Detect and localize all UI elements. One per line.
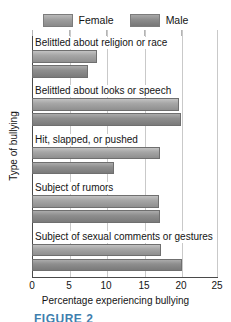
bars [32,50,218,82]
category-label: Hit, slapped, or pushed [34,134,139,146]
x-tick-label: 25 [211,280,222,292]
bar-female [32,147,160,160]
legend-item-male: Male [130,14,189,27]
bar-male [32,113,181,126]
bar-female [32,244,161,257]
x-tick-label: 10 [100,280,111,292]
bar-group-religion-or-race: Belittled about religion or race [32,36,218,84]
x-axis-ticks: 0 5 10 15 20 25 [32,280,218,294]
chart-legend: Female Male [0,10,231,30]
legend-swatch-female-icon [43,14,73,27]
bar-male [32,65,88,78]
bars [32,244,218,276]
bar-female [32,195,159,208]
bar-group-subject-of-rumors: Subject of rumors [32,181,218,229]
bar-male [32,259,182,272]
x-axis-label: Percentage experiencing bullying [0,295,231,307]
bar-groups: Belittled about religion or race Belittl… [32,36,218,278]
bar-male [32,162,114,175]
bars [32,98,218,130]
x-tick-label: 5 [66,280,72,292]
bars [32,147,218,179]
category-label: Belittled about looks or speech [34,85,172,97]
figure-caption: FIGURE 2 [34,312,93,322]
bar-female [32,98,179,111]
category-label: Belittled about religion or race [34,37,168,49]
x-tick-label: 20 [175,280,186,292]
bar-male [32,210,160,223]
bar-group-hit-slapped-pushed: Hit, slapped, or pushed [32,133,218,181]
legend-swatch-male-icon [130,14,160,27]
category-label: Subject of rumors [34,182,114,194]
x-tick-label: 15 [138,280,149,292]
figure-chart: Female Male Belittled about religion or … [0,0,231,322]
legend-item-female: Female [43,14,114,27]
bar-female [32,50,97,63]
bar-group-sexual-comments-or-gestures: Subject of sexual comments or gestures [32,230,218,278]
bar-group-looks-or-speech: Belittled about looks or speech [32,84,218,132]
legend-label-male: Male [166,15,189,26]
x-tick-label: 0 [29,280,35,292]
legend-label-female: Female [79,15,114,26]
bars [32,195,218,227]
y-axis-label: Type of bullying [8,86,20,206]
category-label: Subject of sexual comments or gestures [34,231,214,243]
